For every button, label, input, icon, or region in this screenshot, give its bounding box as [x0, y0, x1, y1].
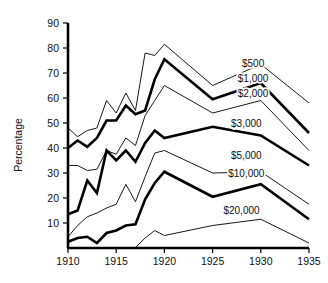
series-label: $500	[242, 58, 265, 69]
y-tick-label: 70	[47, 67, 59, 79]
chart-container: Percentage 102030405060708090 1910191519…	[0, 0, 328, 283]
x-tick-label: 1910	[56, 255, 80, 267]
y-tick-label: 40	[47, 142, 59, 154]
series-label: $5,000	[231, 150, 262, 161]
y-tick-label: 30	[47, 167, 59, 179]
x-tick-label: 1915	[105, 255, 129, 267]
y-tick-label: 80	[47, 42, 59, 54]
series-label: $1,000	[238, 73, 269, 84]
line-chart: Percentage 102030405060708090 1910191519…	[0, 0, 328, 283]
y-tick-label: 20	[47, 192, 59, 204]
y-tick-label: 90	[47, 17, 59, 29]
x-tick-label: 1920	[153, 255, 177, 267]
y-axis-title-text: Percentage	[12, 118, 24, 172]
y-tick-label: 10	[47, 217, 59, 229]
series-label: $2,000	[238, 88, 269, 99]
y-tick-label: 60	[47, 92, 59, 104]
x-tick-label: 1930	[249, 255, 273, 267]
series-label: $3,000	[231, 118, 262, 129]
y-axis-title: Percentage	[12, 118, 24, 172]
series-label: $10,000	[228, 168, 265, 179]
x-tick-label: 1935	[297, 255, 321, 267]
series-label: $20,000	[223, 205, 260, 216]
x-tick-label: 1925	[201, 255, 225, 267]
y-tick-label: 50	[47, 117, 59, 129]
